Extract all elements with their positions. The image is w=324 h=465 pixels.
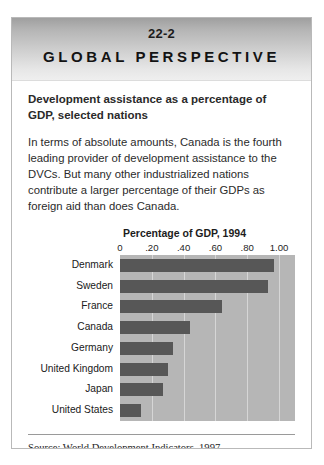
bar-row (120, 338, 295, 359)
category-label: United States (28, 400, 120, 421)
category-label: Japan (28, 379, 120, 400)
bar (120, 280, 268, 293)
plot-area (120, 255, 295, 421)
bar (120, 383, 163, 396)
category-label: Germany (28, 338, 120, 359)
chart-title: Percentage of GDP, 1994 (28, 227, 295, 239)
global-perspective-figure: 22-2 GLOBAL PERSPECTIVE Development assi… (11, 17, 312, 449)
plot-column: 0.20.40.60.801.00 (120, 242, 295, 421)
category-label: Denmark (28, 255, 120, 276)
axis-tick-label: .40 (177, 242, 190, 253)
category-label: United Kingdom (28, 359, 120, 380)
bar-row (120, 255, 295, 276)
bar-row (120, 296, 295, 317)
banner-number: 22-2 (12, 26, 311, 41)
category-axis: DenmarkSwedenFranceCanadaGermanyUnited K… (28, 242, 120, 421)
source-divider (28, 434, 295, 435)
bar-row (120, 276, 295, 297)
axis-spacer (28, 242, 120, 255)
category-label-list: DenmarkSwedenFranceCanadaGermanyUnited K… (28, 255, 120, 421)
category-label: Sweden (28, 276, 120, 297)
bar-row (120, 359, 295, 380)
category-label: France (28, 296, 120, 317)
bar (120, 363, 168, 376)
axis-tick-label: .60 (209, 242, 222, 253)
banner-header: 22-2 GLOBAL PERSPECTIVE (12, 18, 311, 81)
category-label: Canada (28, 317, 120, 338)
bar (120, 404, 141, 417)
figure-subtitle: Development assistance as a percentage o… (28, 92, 295, 124)
bar-chart: Percentage of GDP, 1994 DenmarkSwedenFra… (28, 227, 295, 421)
source-note: Source: World Development Indicators, 19… (28, 442, 295, 449)
figure-content: Development assistance as a percentage o… (12, 81, 311, 421)
axis-tick-label: .80 (241, 242, 254, 253)
value-axis-ticks: 0.20.40.60.801.00 (120, 242, 295, 255)
bar (120, 300, 222, 313)
figure-paragraph: In terms of absolute amounts, Canada is … (28, 134, 295, 214)
axis-tick-label: 1.00 (270, 242, 289, 253)
bar-row (120, 379, 295, 400)
chart-grid: DenmarkSwedenFranceCanadaGermanyUnited K… (28, 242, 295, 421)
bar (120, 259, 274, 272)
bar-row (120, 400, 295, 421)
axis-tick-label: 0 (117, 242, 122, 253)
bar-row (120, 317, 295, 338)
bar (120, 321, 190, 334)
banner-title: GLOBAL PERSPECTIVE (12, 48, 311, 65)
axis-tick-label: .20 (145, 242, 158, 253)
bar (120, 342, 173, 355)
